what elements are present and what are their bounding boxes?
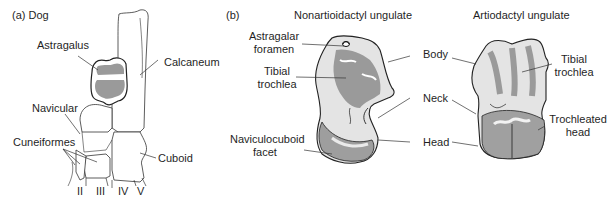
artiodactyl-title: Artiodactyl ungulate bbox=[473, 9, 570, 21]
artio-trochleated-head bbox=[482, 110, 545, 158]
nonartiodactyl-title: Nonartioidactyl ungulate bbox=[294, 9, 412, 21]
digit-label-III: III bbox=[96, 185, 105, 197]
label-body: Body bbox=[423, 48, 448, 60]
cuneiform-III bbox=[84, 154, 110, 178]
label-tibial-trochlea-left-line2: trochlea bbox=[256, 78, 298, 90]
label-cuneiformes: Cuneiformes bbox=[13, 136, 75, 148]
label-astragalar-foramen-line2: foramen bbox=[248, 43, 300, 55]
label-cuboid: Cuboid bbox=[158, 152, 193, 164]
digit-label-V: V bbox=[137, 185, 144, 197]
dog-tarsus-drawing bbox=[68, 10, 148, 188]
label-tibial-trochlea-left-line1: Tibial bbox=[256, 65, 298, 77]
diagram-artwork bbox=[0, 0, 613, 202]
cuboid-bone bbox=[112, 132, 147, 182]
navicular-bone bbox=[80, 105, 112, 133]
digit-label-IV: IV bbox=[118, 185, 128, 197]
label-naviculocuboid-line1: Naviculocuboid bbox=[230, 133, 300, 145]
digit-label-II: II bbox=[77, 185, 83, 197]
figure-canvas: (a) Dog Astragalus Calcaneum Navicular C… bbox=[0, 0, 613, 202]
label-neck: Neck bbox=[423, 92, 448, 104]
panel-b-title: (b) bbox=[226, 9, 239, 21]
label-astragalus: Astragalus bbox=[37, 39, 89, 51]
label-navicular: Navicular bbox=[32, 102, 78, 114]
label-trochleated-head-line2: head bbox=[546, 126, 610, 138]
label-tibial-trochlea-right-line1: Tibial bbox=[552, 53, 596, 65]
panel-a-title: (a) Dog bbox=[12, 9, 49, 21]
label-astragalar-foramen-line1: Astragalar bbox=[248, 30, 300, 42]
label-trochleated-head-line1: Trochleated bbox=[546, 113, 610, 125]
label-head: Head bbox=[423, 136, 449, 148]
nonartiodactyl-astragalus-drawing bbox=[316, 36, 394, 164]
cuneiform-I bbox=[68, 162, 73, 186]
label-naviculocuboid-line2: facet bbox=[230, 146, 300, 158]
artiodactyl-astragalus-drawing bbox=[472, 39, 548, 159]
label-tibial-trochlea-right-line2: trochlea bbox=[552, 66, 596, 78]
label-calcaneum: Calcaneum bbox=[164, 56, 220, 68]
